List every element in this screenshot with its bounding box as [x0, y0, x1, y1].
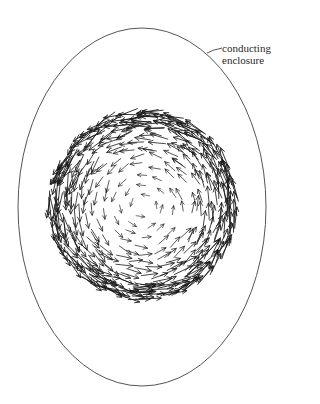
field-arrow-icon: [135, 268, 152, 272]
field-arrow-icon: [118, 179, 126, 186]
field-arrow-icon: [137, 173, 146, 176]
field-arrow-icon: [177, 168, 187, 175]
field-arrow-icon: [116, 264, 133, 268]
field-arrow-icon: [215, 222, 221, 239]
field-arrow-icon: [137, 183, 146, 186]
field-arrow-icon: [192, 201, 196, 212]
field-arrow-icon: [115, 216, 119, 224]
field-arrow-icon: [117, 255, 132, 260]
field-arrow-icon: [198, 201, 202, 215]
field-arrow-icon: [103, 235, 109, 245]
field-arrow-icon: [135, 245, 147, 249]
field-arrow-icon: [173, 137, 191, 144]
field-arrow-icon: [129, 222, 137, 227]
field-arrow-icon: [174, 246, 185, 258]
field-arrow-icon: [130, 162, 142, 166]
field-arrow-icon: [46, 191, 50, 215]
field-arrow-icon: [141, 272, 158, 276]
field-arrow-icon: [181, 201, 185, 211]
field-arrow-icon: [63, 214, 71, 233]
field-arrow-icon: [148, 140, 165, 144]
field-arrow-icon: [155, 201, 158, 208]
field-arrow-icon: [126, 230, 135, 234]
field-arrow-icon: [183, 154, 193, 166]
field-arrow-icon: [203, 211, 207, 228]
field-arrow-icon: [171, 237, 180, 247]
field-arrow-icon: [157, 224, 164, 231]
field-arrow-icon: [115, 230, 123, 237]
field-arrow-icon: [130, 258, 143, 262]
field-arrow-icon: [116, 109, 138, 118]
field-arrow-icon: [141, 193, 150, 196]
field-arrow-icon: [120, 149, 135, 153]
field-arrow-icon: [130, 198, 133, 206]
field-arrow-icon: [64, 244, 78, 258]
field-arrow-icon: [170, 188, 176, 197]
field-arrow-icon: [216, 173, 220, 191]
field-arrow-icon: [80, 182, 84, 199]
field-arrow-icon: [197, 229, 203, 244]
field-arrow-icon: [149, 152, 161, 158]
field-arrow-icon: [93, 192, 97, 205]
field-arrow-icon: [90, 203, 94, 215]
field-arrow-icon: [126, 250, 138, 255]
field-arrow-icon: [188, 229, 193, 242]
field-arrow-icon: [168, 228, 176, 235]
field-arrow-icon: [99, 286, 121, 295]
field-arrow-icon: [206, 186, 210, 203]
field-arrow-icon: [103, 209, 107, 220]
field-arrow-icon: [150, 133, 168, 139]
field-arrow-icon: [157, 188, 164, 193]
field-arrow-icon: [105, 180, 109, 192]
field-arrow-icon: [142, 235, 151, 238]
field-arrow-icon: [69, 197, 73, 214]
field-arrow-icon: [195, 170, 204, 182]
field-arrow-icon: [80, 233, 87, 250]
field-arrow-icon: [210, 201, 214, 218]
field-arrow-icon: [172, 206, 175, 215]
field-arrow-icon: [160, 205, 163, 213]
vector-field-arrows: [45, 109, 238, 303]
field-arrow-icon: [131, 154, 144, 159]
field-arrow-icon: [107, 143, 121, 148]
field-arrow-icon: [165, 169, 174, 178]
annotation-label-line1: conducting: [222, 42, 271, 54]
field-arrow-icon: [97, 163, 107, 171]
field-arrow-icon: [121, 239, 132, 243]
field-arrow-icon: [127, 269, 141, 274]
field-arrow-icon: [88, 180, 93, 195]
field-arrow-icon: [206, 153, 217, 170]
field-arrow-icon: [86, 214, 90, 229]
field-arrow-icon: [126, 189, 130, 196]
field-arrow-icon: [136, 215, 145, 218]
field-arrow-icon: [178, 174, 186, 182]
field-arrow-icon: [164, 150, 178, 156]
field-arrow-icon: [155, 248, 166, 254]
field-arrow-icon: [153, 177, 162, 181]
field-arrow-icon: [119, 246, 131, 255]
field-arrow-icon: [91, 229, 99, 241]
field-arrow-icon: [159, 236, 169, 244]
field-arrow-icon: [78, 204, 82, 222]
field-arrow-icon: [166, 258, 180, 263]
field-arrow-icon: [139, 252, 152, 256]
field-arrow-icon: [149, 166, 161, 170]
annotation-leader-line: [207, 48, 222, 53]
field-arrow-icon: [148, 223, 156, 228]
field-arrow-icon: [158, 252, 171, 259]
field-arrow-icon: [97, 219, 103, 231]
field-arrow-icon: [74, 193, 78, 209]
field-arrow-icon: [119, 205, 122, 213]
field-arrow-icon: [222, 184, 226, 204]
field-arrow-icon: [176, 188, 182, 199]
field-arrow-icon: [119, 164, 129, 172]
field-arrow-icon: [96, 177, 103, 187]
field-arrow-icon: [73, 175, 79, 192]
field-arrow-icon: [73, 208, 77, 227]
annotation-label-line2: enclosure: [222, 54, 264, 66]
field-arrow-icon: [112, 192, 117, 201]
field-arrow-icon: [213, 187, 217, 205]
field-arrow-icon: [116, 132, 131, 140]
